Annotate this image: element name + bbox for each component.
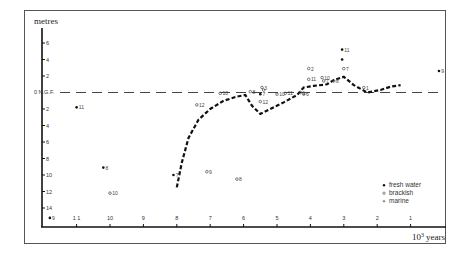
x-tick-label: 3 — [342, 215, 345, 221]
data-point-brackish: 12 — [196, 102, 205, 108]
fresh-water-marker — [102, 166, 105, 169]
data-point-fresh-water — [341, 58, 344, 61]
data-point-brackish: 11 — [307, 76, 316, 82]
x-tick-label: 6 — [242, 215, 245, 221]
brackish-marker — [109, 192, 112, 195]
y-tick-label: 12 — [46, 189, 52, 195]
x-tick-label: 1 — [409, 215, 412, 221]
legend-fresh-water-marker — [383, 184, 385, 186]
legend: fresh waterbrackishmarine — [383, 181, 422, 204]
data-point-label: 11 — [79, 104, 84, 110]
y-tick-label: 2 — [46, 106, 49, 112]
y-tick-label: 4 — [46, 123, 49, 129]
fresh-water-marker — [438, 70, 441, 73]
y-axis-ticks: 6422468101214 — [42, 40, 52, 211]
legend-label: marine — [389, 197, 409, 204]
data-point-brackish: 12 — [259, 99, 268, 105]
data-point-fresh-water: 9 — [49, 215, 56, 221]
data-point-label: 1 — [366, 85, 369, 91]
brackish-marker — [196, 104, 199, 107]
brackish-marker — [259, 100, 262, 103]
legend-marine-marker — [383, 200, 386, 203]
legend-brackish-marker — [383, 192, 385, 194]
data-point-label: 9 — [52, 215, 55, 221]
y-tick-label: 6 — [46, 40, 49, 46]
data-point-brackish: 9 — [206, 169, 213, 175]
sea-level-chart: metres 6422468101214 1 110987654321 0 N.… — [0, 0, 468, 255]
data-point-label: 6 — [306, 91, 309, 97]
fresh-water-marker — [259, 93, 262, 96]
brackish-marker — [307, 78, 310, 81]
y-tick-label: 14 — [46, 205, 52, 211]
data-point-label: 7 — [263, 91, 266, 97]
data-point-label: 8 — [336, 78, 339, 84]
legend-label: fresh water — [389, 181, 422, 188]
data-point-brackish: 10 — [219, 90, 228, 96]
brackish-marker — [307, 67, 310, 70]
brackish-marker — [321, 76, 324, 79]
x-axis-label: 103years — [412, 232, 445, 243]
data-point-fresh-water: 9 — [438, 68, 445, 74]
data-point-fresh-water: 7 — [172, 172, 179, 178]
data-point-label: 9 — [209, 169, 212, 175]
data-point-brackish: 10 — [109, 190, 118, 196]
fresh-water-marker — [341, 58, 344, 61]
fresh-water-marker — [172, 174, 175, 177]
y-axis-label: metres — [34, 16, 58, 26]
data-point-fresh-water: 11 — [75, 104, 84, 110]
data-point-label: 7 — [326, 78, 329, 84]
x-tick-label: 1 1 — [73, 215, 81, 221]
brackish-marker — [206, 170, 209, 173]
data-point-label: 2 — [311, 66, 314, 72]
fresh-water-marker — [75, 106, 78, 109]
data-point-label: 9 — [441, 68, 444, 74]
data-point-label: 8 — [239, 176, 242, 182]
data-point-brackish: 8 — [236, 176, 243, 182]
data-point-label: 8 — [106, 165, 109, 171]
data-point-label: 10 — [112, 190, 118, 196]
data-point-fresh-water: 8 — [102, 165, 109, 171]
data-point-label: 8 — [252, 89, 255, 95]
data-point-brackish: 7 — [343, 66, 350, 72]
data-point-label: 11 — [344, 47, 349, 53]
x-tick-label: 5 — [275, 215, 278, 221]
legend-label: brackish — [389, 189, 414, 196]
data-point-label: 7 — [176, 172, 179, 178]
data-points: 911877119109812108123101116211107871 — [49, 47, 445, 221]
brackish-marker — [363, 86, 366, 89]
chart-frame — [25, 11, 446, 244]
ngf-label: 0 N.G.F. — [34, 89, 55, 95]
data-point-label: 12 — [199, 102, 205, 108]
y-tick-label: 4 — [46, 57, 49, 63]
brackish-marker — [261, 86, 264, 89]
x-tick-label: 10 — [107, 215, 113, 221]
data-point-brackish: 8 — [249, 89, 256, 95]
y-tick-label: 6 — [46, 139, 49, 145]
brackish-marker — [236, 178, 239, 181]
data-point-brackish: 11 — [284, 90, 293, 96]
x-axis-ticks: 1 110987654321 — [73, 215, 412, 227]
data-point-label: 10 — [222, 90, 228, 96]
data-point-brackish: 2 — [307, 66, 313, 72]
data-point-fresh-water: 11 — [341, 47, 350, 53]
data-point-label: 11 — [288, 90, 293, 96]
brackish-marker — [276, 93, 279, 96]
x-tick-label: 7 — [209, 215, 212, 221]
y-tick-label: 8 — [46, 156, 49, 162]
brackish-marker — [343, 67, 346, 70]
fresh-water-marker — [341, 48, 344, 51]
data-point-label: 7 — [346, 66, 349, 72]
brackish-marker — [249, 90, 252, 93]
x-tick-label: 8 — [175, 215, 178, 221]
data-point-brackish: 3 — [261, 85, 268, 91]
fresh-water-marker — [49, 217, 52, 220]
x-tick-label: 9 — [142, 215, 145, 221]
y-tick-label: 10 — [46, 172, 52, 178]
x-tick-label: 2 — [376, 215, 379, 221]
x-tick-label: 4 — [309, 215, 312, 221]
y-tick-label: 2 — [46, 73, 49, 79]
data-point-label: 12 — [263, 99, 269, 105]
data-point-label: 11 — [311, 76, 316, 82]
axes — [41, 28, 446, 227]
